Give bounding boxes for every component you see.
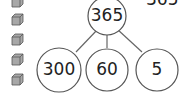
- child-value-300: 300: [37, 61, 81, 78]
- connector-line: [117, 29, 142, 52]
- cube-icon: [12, 54, 23, 65]
- child-value-5: 5: [136, 61, 178, 78]
- number-bond-diagram: 365 300 60 5 365: [0, 0, 179, 96]
- connector-line: [76, 29, 98, 52]
- cube-icon: [12, 74, 23, 85]
- top-value: 365: [88, 7, 126, 24]
- child-value-60: 60: [86, 61, 128, 78]
- cube-icon: [12, 34, 23, 45]
- cube-icon: [12, 14, 23, 25]
- cube-icon: [12, 0, 23, 7]
- cut-off-label: 365: [146, 0, 178, 8]
